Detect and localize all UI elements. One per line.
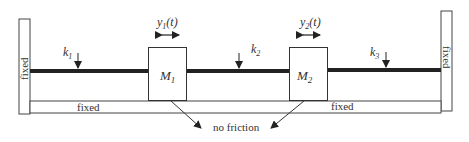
right-wall-label: fixed — [441, 46, 453, 69]
displacement-y1: y1(t) — [156, 15, 179, 35]
spring-k3-label: k3 — [370, 45, 379, 61]
floor-left-label: fixed — [77, 101, 100, 113]
mass-spring-diagram: fixed fixed fixed fixed k1 k2 k3 M1 y1(t… — [0, 0, 469, 142]
spring-k1-label: k1 — [63, 45, 72, 61]
spring-k2-label: k2 — [251, 42, 260, 58]
no-friction-label: no friction — [213, 121, 260, 133]
floor-right-label: fixed — [331, 100, 354, 112]
displacement-y1-label: y1(t) — [156, 15, 178, 31]
spring-k1: k1 — [63, 45, 78, 68]
spring-k2: k2 — [239, 42, 260, 68]
floor: fixed fixed — [30, 100, 441, 113]
spring-bars — [30, 68, 441, 73]
left-wall-label: fixed — [18, 57, 30, 80]
mass-m2: M2 — [290, 48, 328, 101]
right-wall: fixed — [441, 11, 453, 111]
displacement-y2-label: y2(t) — [299, 15, 321, 31]
displacement-y2: y2(t) — [299, 15, 321, 35]
left-wall: fixed — [18, 19, 30, 114]
spring-k3: k3 — [370, 45, 386, 67]
mass-m1: M1 — [149, 48, 187, 101]
